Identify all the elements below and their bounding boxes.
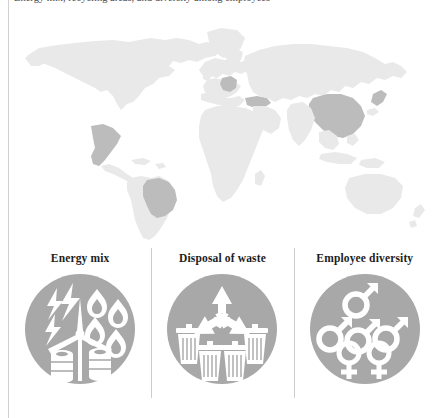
region-new-guinea (359, 158, 385, 168)
region-north-america (27, 38, 221, 110)
region-new-zealand-2 (409, 220, 417, 228)
figure-container: Energy mix, recycling areas, and diversi… (0, 0, 436, 418)
region-japan-south (367, 108, 379, 116)
region-new-zealand (413, 204, 425, 218)
country-mexico (91, 124, 121, 166)
caption-text: Energy mix, recycling areas, and diversi… (14, 0, 428, 6)
panel-energy-mix: Energy mix (9, 243, 151, 415)
region-caribbean-2 (155, 163, 166, 169)
energy-mix-icon (24, 273, 136, 385)
country-china (309, 94, 365, 138)
employee-diversity-icon (309, 273, 421, 385)
world-map-svg (9, 18, 436, 240)
region-africa (199, 106, 263, 202)
disposal-of-waste-icon (166, 273, 278, 385)
region-madagascar (255, 170, 265, 186)
region-central-america (101, 164, 133, 182)
world-map (9, 18, 436, 240)
region-caribbean (131, 158, 151, 165)
region-india (287, 102, 315, 146)
panel-title-disposal-of-waste: Disposal of waste (179, 252, 266, 264)
panel-title-employee-diversity: Employee diversity (316, 252, 413, 264)
panel-title-energy-mix: Energy mix (51, 252, 110, 264)
panels-row: Energy mix (9, 243, 436, 415)
region-indonesia (319, 152, 357, 164)
region-australia (345, 174, 403, 214)
panel-disposal-of-waste: Disposal of waste (151, 243, 293, 415)
country-japan (371, 90, 387, 106)
region-philippines (347, 134, 359, 146)
panel-employee-diversity: Employee diversity (294, 243, 436, 415)
